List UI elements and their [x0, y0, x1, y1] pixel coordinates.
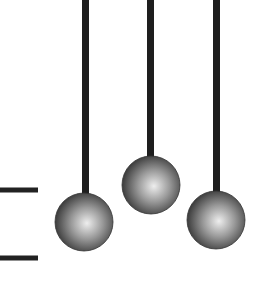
pendulum-ball	[122, 156, 180, 214]
pendulum-ball	[55, 193, 113, 251]
pendulum-diagram	[0, 0, 269, 286]
pendulum-ball	[187, 191, 245, 249]
reference-lines	[0, 190, 38, 258]
